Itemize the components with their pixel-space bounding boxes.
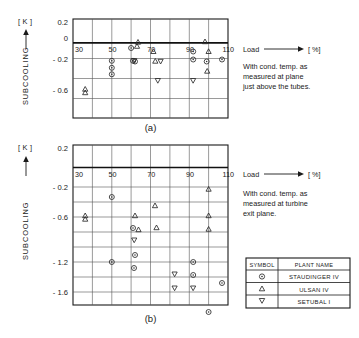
panel-b-xtick-90: 90 [186, 170, 194, 179]
panel-b-xtick-50: 50 [109, 170, 117, 179]
panel-b-note-line-1: With cond. temp. as [243, 189, 308, 198]
panel-a-note-line-1: With cond. temp. as [243, 62, 308, 71]
panel-b-x-unit-label: [ %] [308, 170, 321, 179]
panel-b: [ K ] 0.2 - 0.2 - 0.6 - 1.2 - 1.6 SUBCOO… [18, 143, 321, 324]
panel-a-y-axis-title: SUBCOOLING [21, 47, 30, 105]
panel-a-note-line-3: just above the tubes. [242, 82, 310, 91]
legend-symbol-triangle-up-icon [259, 286, 264, 291]
panel-a-xtick-30: 30 [75, 45, 83, 54]
series-ulsan-iv-points-b [83, 187, 212, 232]
legend-row-3-name: SETUBAL I [297, 299, 330, 305]
panel-b-ytick--1.2: - 1.2 [53, 258, 68, 267]
legend-header-plant-name: PLANT NAME [295, 262, 334, 268]
panel-a-note: With cond. temp. as measured at plane ju… [242, 62, 310, 91]
panel-b-caption: (b) [145, 313, 157, 324]
panel-b-y-axis-arrow-icon [23, 156, 29, 176]
panel-a-x-unit-label: [ %] [308, 45, 321, 54]
series-staudinger-iv-points-a [109, 46, 224, 77]
panel-a-ytick-0.2: 0.2 [57, 18, 68, 27]
panel-b-ytick--1.6: - 1.6 [53, 288, 68, 297]
panel-b-xtick-30: 30 [75, 170, 83, 179]
panel-b-x-axis-title: Load [243, 170, 259, 179]
series-setubal-i-points-a [132, 59, 196, 84]
legend-row-2-name: ULSAN IV [299, 287, 329, 293]
panel-b-y-axis-title: SUBCOOLING [21, 202, 30, 260]
panel-b-ytick--0.6: - 0.6 [53, 213, 68, 222]
panel-a: [ K ] 0.2 0 - 0.2 - 0.6 SUBCOOLING [18, 17, 321, 133]
panel-b-vertical-gridlines [92, 145, 208, 305]
panel-a-xtick-90: 90 [186, 45, 194, 54]
panel-a-y-axis-arrow-icon [23, 29, 29, 48]
panel-a-ytick--0.2: - 0.2 [53, 55, 68, 64]
panel-a-x-axis-title: Load [243, 45, 259, 54]
series-setubal-i-points-b [132, 238, 196, 291]
panel-b-x-axis-arrow-icon [264, 171, 304, 176]
panel-b-ytick--0.2: - 0.2 [53, 183, 68, 192]
panel-a-xtick-110: 110 [223, 45, 234, 54]
legend-table: SYMBOL PLANT NAME STAUDINGER IV ULSAN IV… [246, 258, 350, 308]
panel-b-xtick-70: 70 [147, 170, 155, 179]
panel-b-y-unit-label: [ K ] [18, 143, 32, 152]
panel-a-ytick--0.6: - 0.6 [53, 86, 68, 95]
panel-b-note-line-2: measured at turbine [243, 199, 308, 208]
panel-a-ytick-0: 0 [64, 34, 68, 43]
panel-a-x-axis-arrow-icon [264, 46, 304, 51]
legend-header-symbol: SYMBOL [249, 262, 274, 268]
panel-b-xtick-110: 110 [223, 170, 234, 179]
panel-b-data-points [83, 187, 225, 315]
legend-symbol-triangle-down-icon [259, 299, 264, 304]
legend-row-1-name: STAUDINGER IV [289, 274, 339, 280]
series-staudinger-iv-points-b [109, 195, 224, 315]
panel-b-ytick-0.2: 0.2 [57, 144, 68, 153]
panel-b-note-line-3: exit plane. [243, 209, 276, 218]
panel-a-y-unit-label: [ K ] [18, 17, 32, 26]
panel-a-xtick-labels: 30 50 70 90 110 [75, 45, 234, 54]
panel-a-xtick-50: 50 [109, 45, 117, 54]
panel-b-note: With cond. temp. as measured at turbine … [243, 189, 308, 218]
panel-a-note-line-2: measured at plane [243, 72, 303, 81]
figure-subcooling-vs-load: [ K ] 0.2 0 - 0.2 - 0.6 SUBCOOLING [0, 0, 359, 338]
legend-symbol-circle-dot-icon [259, 274, 264, 279]
panel-a-caption: (a) [145, 122, 157, 133]
panel-b-xtick-labels: 30 50 70 90 110 [75, 170, 234, 179]
